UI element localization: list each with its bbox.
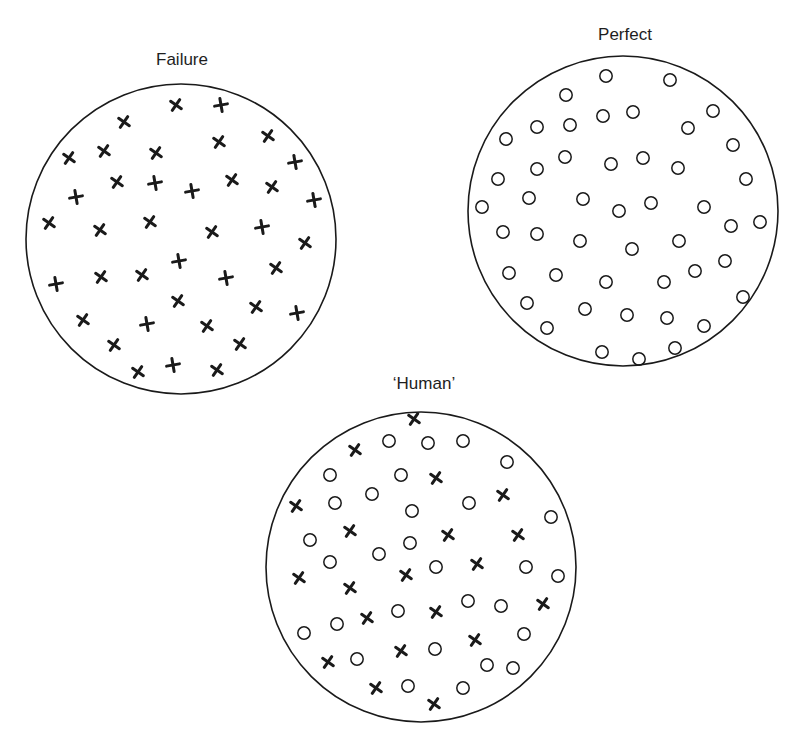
cross-marker-icon — [287, 497, 305, 515]
circle-marker-icon — [457, 682, 469, 694]
circle-marker-icon — [507, 662, 519, 674]
cross-marker-icon — [169, 292, 187, 310]
circle-marker-icon — [541, 322, 553, 334]
circle-marker-icon — [600, 70, 612, 82]
cross-marker-icon — [92, 268, 110, 286]
cross-marker-icon — [367, 679, 385, 697]
cross-marker-icon — [105, 336, 123, 354]
circle-marker-icon — [637, 152, 649, 164]
cross-marker-icon — [141, 213, 159, 231]
circle-marker-icon — [366, 488, 378, 500]
circle-marker-icon — [664, 74, 676, 86]
plus-marker-icon — [147, 175, 162, 190]
circle-marker-icon — [698, 320, 710, 332]
cross-marker-icon — [341, 522, 359, 540]
human-diagram — [266, 410, 576, 722]
circle-marker-icon — [559, 151, 571, 163]
circle-marker-icon — [481, 659, 493, 671]
circle-marker-icon — [501, 456, 513, 468]
cross-marker-icon — [115, 113, 133, 131]
circle-marker-icon — [429, 643, 441, 655]
circle-marker-icon — [605, 158, 617, 170]
circle-marker-icon — [531, 121, 543, 133]
cross-marker-icon — [466, 631, 484, 649]
perfect-diagram — [468, 56, 778, 366]
cross-marker-icon — [425, 695, 443, 713]
circle-marker-icon — [298, 627, 310, 639]
circle-marker-icon — [740, 173, 752, 185]
circle-marker-icon — [596, 346, 608, 358]
circle-marker-icon — [627, 106, 639, 118]
cross-marker-icon — [133, 266, 151, 284]
cross-marker-icon — [296, 234, 314, 252]
circle-marker-icon — [331, 618, 343, 630]
cross-marker-icon — [247, 298, 265, 316]
cross-marker-icon — [427, 603, 445, 621]
circle-marker-icon — [518, 628, 530, 640]
circle-marker-icon — [531, 163, 543, 175]
circle-marker-icon — [613, 205, 625, 217]
circle-marker-icon — [698, 201, 710, 213]
cross-marker-icon — [319, 653, 337, 671]
human-boundary-circle — [266, 412, 576, 722]
circle-marker-icon — [626, 243, 638, 255]
circle-marker-icon — [669, 342, 681, 354]
circle-marker-icon — [521, 297, 533, 309]
failure-title: Failure — [156, 51, 208, 68]
circle-marker-icon — [645, 197, 657, 209]
circle-marker-icon — [719, 255, 731, 267]
circle-marker-icon — [476, 201, 488, 213]
circle-marker-icon — [503, 267, 515, 279]
circle-marker-icon — [577, 193, 589, 205]
circle-marker-icon — [430, 561, 442, 573]
circle-marker-icon — [621, 309, 633, 321]
circle-marker-icon — [552, 570, 564, 582]
plus-marker-icon — [171, 253, 186, 268]
circle-marker-icon — [523, 192, 535, 204]
circle-marker-icon — [727, 139, 739, 151]
circle-marker-icon — [304, 534, 316, 546]
circle-marker-icon — [579, 303, 591, 315]
circle-marker-icon — [351, 653, 363, 665]
failure-diagram — [26, 84, 336, 394]
cross-marker-icon — [259, 127, 277, 145]
cross-marker-icon — [129, 363, 147, 381]
circle-marker-icon — [707, 105, 719, 117]
cross-marker-icon — [231, 335, 249, 353]
circle-marker-icon — [422, 437, 434, 449]
circle-marker-icon — [383, 435, 395, 447]
circle-marker-icon — [404, 537, 416, 549]
cross-marker-icon — [60, 149, 78, 167]
cross-marker-icon — [439, 526, 457, 544]
cross-marker-icon — [358, 609, 376, 627]
circle-marker-icon — [673, 235, 685, 247]
cross-marker-icon — [534, 595, 552, 613]
cross-marker-icon — [427, 469, 445, 487]
cross-marker-icon — [40, 214, 58, 232]
plus-marker-icon — [213, 97, 228, 112]
circle-marker-icon — [500, 133, 512, 145]
circle-marker-icon — [633, 353, 645, 365]
cross-marker-icon — [147, 144, 165, 162]
circle-marker-icon — [658, 276, 670, 288]
circle-marker-icon — [329, 497, 341, 509]
human-title: ‘Human’ — [393, 375, 455, 392]
circle-marker-icon — [574, 235, 586, 247]
cross-marker-icon — [468, 555, 486, 573]
cross-marker-icon — [494, 486, 512, 504]
circle-marker-icon — [661, 312, 673, 324]
cross-marker-icon — [198, 317, 216, 335]
cross-marker-icon — [210, 133, 228, 151]
circle-marker-icon — [495, 600, 507, 612]
cross-marker-icon — [290, 569, 308, 587]
plus-marker-icon — [68, 189, 83, 204]
cross-marker-icon — [392, 642, 410, 660]
plus-marker-icon — [289, 305, 304, 320]
circle-marker-icon — [737, 291, 749, 303]
plus-marker-icon — [184, 183, 199, 198]
plus-marker-icon — [254, 219, 269, 234]
cross-marker-icon — [95, 142, 113, 160]
plus-marker-icon — [218, 270, 233, 285]
circle-marker-icon — [597, 110, 609, 122]
plus-marker-icon — [287, 154, 302, 169]
